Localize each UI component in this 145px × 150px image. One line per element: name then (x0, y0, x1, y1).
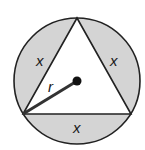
segment-right-label: x (109, 52, 118, 69)
segment-left-label: x (35, 52, 44, 69)
inscribed-triangle-diagram: x x x r (0, 0, 145, 150)
center-dot (73, 77, 82, 86)
segment-bottom-label: x (72, 119, 81, 136)
